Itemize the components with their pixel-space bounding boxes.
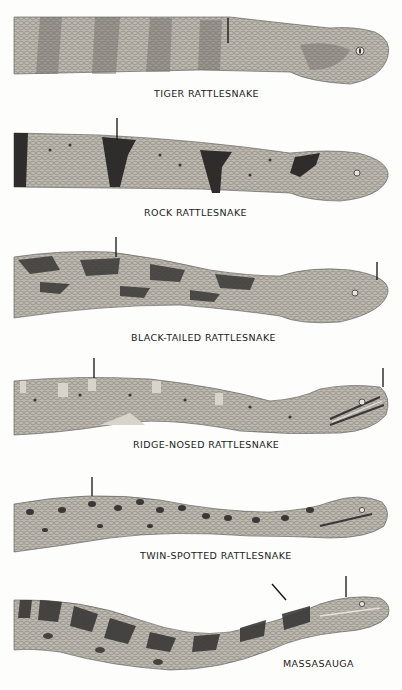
- species-label: MASSASAUGA: [283, 658, 354, 669]
- species-label: RIDGE-NOSED RATTLESNAKE: [133, 439, 279, 450]
- species-panel-black-tailed-rattlesnake: BLACK-TAILED RATTLESNAKE: [0, 230, 402, 345]
- species-panel-ridge-nosed-rattlesnake: RIDGE-NOSED RATTLESNAKE: [0, 345, 402, 460]
- species-panel-twin-spotted-rattlesnake: TWIN-SPOTTED RATTLESNAKE: [0, 460, 402, 570]
- species-label: ROCK RATTLESNAKE: [144, 207, 247, 218]
- species-panel-massasauga: MASSASAUGA: [0, 570, 402, 690]
- species-label: BLACK-TAILED RATTLESNAKE: [131, 332, 276, 343]
- species-panel-rock-rattlesnake: ROCK RATTLESNAKE: [0, 115, 402, 230]
- species-panel-tiger-rattlesnake: TIGER RATTLESNAKE: [0, 0, 402, 110]
- pointer-line: [272, 584, 286, 600]
- black-tailed-rattlesnake-illustration: [0, 230, 402, 345]
- massasauga-illustration: [0, 570, 402, 690]
- species-label: TWIN-SPOTTED RATTLESNAKE: [140, 550, 292, 561]
- species-label: TIGER RATTLESNAKE: [154, 88, 259, 99]
